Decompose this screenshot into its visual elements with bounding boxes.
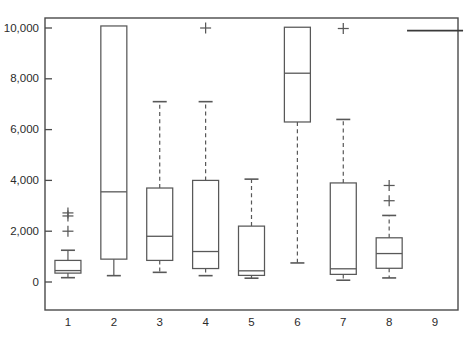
- box-group-7: [330, 23, 356, 280]
- box-group-4: [193, 23, 219, 276]
- y-tick-label: 8,000: [10, 72, 39, 84]
- boxplot-chart: 02,0004,0006,0008,00010,000 123456789: [0, 0, 471, 337]
- box-series: [55, 23, 463, 281]
- box-body: [239, 226, 265, 275]
- boxplot-canvas: 02,0004,0006,0008,00010,000 123456789: [0, 0, 471, 337]
- box-group-6: [284, 27, 310, 263]
- y-tick-label: 10,000: [4, 22, 39, 34]
- x-tick-label: 5: [248, 316, 254, 328]
- y-tick-label: 2,000: [10, 225, 39, 237]
- x-tick-label: 1: [65, 316, 71, 328]
- y-tick-label: 0: [33, 276, 39, 288]
- box-body: [147, 188, 173, 260]
- x-tick-label: 7: [340, 316, 346, 328]
- x-axis-ticks: 123456789: [65, 316, 439, 328]
- box-body: [101, 26, 127, 259]
- box-group-5: [239, 179, 265, 278]
- x-tick-label: 4: [202, 316, 209, 328]
- plot-frame: [45, 18, 458, 310]
- y-tick-label: 4,000: [10, 174, 39, 186]
- axis-frame: [45, 18, 458, 310]
- x-tick-label: 8: [386, 316, 392, 328]
- y-tick-label: 6,000: [10, 123, 39, 135]
- x-tick-label: 6: [294, 316, 300, 328]
- box-group-1: [55, 207, 81, 277]
- box-body: [193, 180, 219, 268]
- box-body: [330, 183, 356, 274]
- x-tick-label: 3: [157, 316, 163, 328]
- box-group-3: [147, 102, 173, 273]
- box-group-2: [101, 26, 127, 276]
- box-group-8: [376, 180, 402, 278]
- x-tick-label: 2: [111, 316, 117, 328]
- x-tick-label: 9: [432, 316, 438, 328]
- box-body: [284, 27, 310, 122]
